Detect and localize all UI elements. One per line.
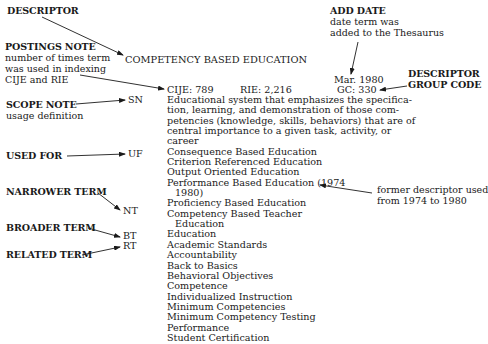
add-date-desc-2: added to the Thesaurus [330,27,444,38]
group-code-label-1: DESCRIPTOR [408,68,481,79]
code-nt: NT [123,205,138,216]
entry-body: Educational system that emphasizes the s… [167,95,415,343]
postings-note-callout: POSTINGS NOTE number of times term was u… [5,41,110,85]
descriptor-heading: COMPETENCY BASED EDUCATION [125,54,307,65]
related-term-label: RELATED TERM [6,249,92,260]
scope-note-line: central importance to a given task, acti… [167,126,415,136]
code-uf: UF [128,148,143,159]
code-sn: SN [128,94,143,105]
add-date-arrow [351,42,358,74]
group-code-arrow [380,86,407,90]
used-for-label: USED FOR [6,150,62,161]
add-date-label: ADD DATE [330,5,444,16]
group-code-label-2: GROUP CODE [408,79,481,90]
scope-note-desc: usage definition [6,110,83,121]
used-for-arrow [67,154,125,156]
scope-note-label: SCOPE NOTE [6,99,83,110]
related-term: Competence [167,281,415,291]
related-term: Accountability [167,250,415,260]
descriptor-label: DESCRIPTOR [7,5,79,16]
related-term: Student Certification [167,333,415,343]
group-code-callout: DESCRIPTOR GROUP CODE [408,68,481,90]
add-date-callout: ADD DATE date term was added to the Thes… [330,5,444,38]
postings-note-desc-1: number of times term [5,52,110,63]
postings-note-label: POSTINGS NOTE [5,41,110,52]
postings-note-desc-3: CIJE and RIE [5,74,110,85]
code-rt: RT [123,240,136,251]
narrower-term-label: NARROWER TERM [6,186,107,197]
scope-note-arrow [76,100,125,104]
add-date-desc-1: date term was [330,16,444,27]
scope-note-callout: SCOPE NOTE usage definition [6,99,83,121]
used-for-term: Performance Based Education (1974 [167,178,415,188]
related-term: Minimum Competency Testing [167,312,415,322]
postings-note-desc-2: was used in indexing [5,63,110,74]
broader-term-label: BROADER TERM [6,222,96,233]
